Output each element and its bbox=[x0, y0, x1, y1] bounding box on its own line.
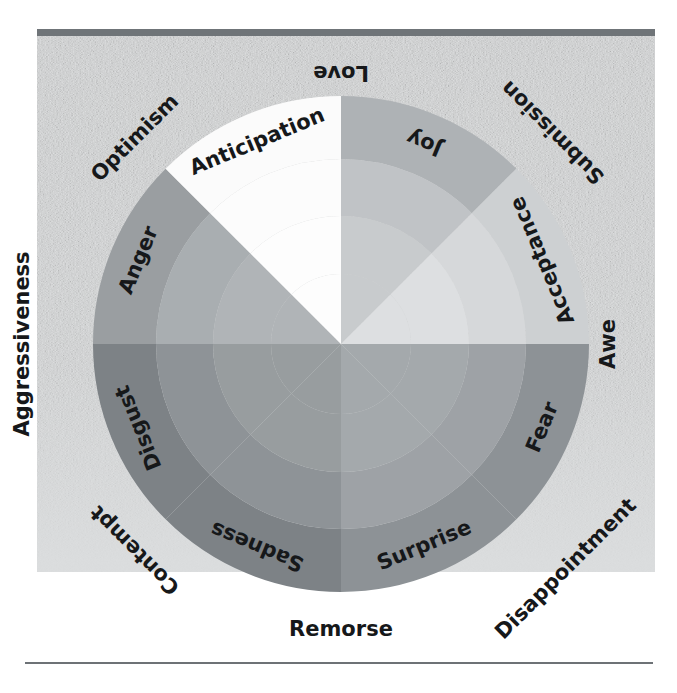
figure-canvas: JoyAcceptanceFearSurpriseSadnessDisgustA… bbox=[0, 0, 677, 693]
dyad-label-love: Love bbox=[313, 61, 369, 85]
dyad-label-remorse: Remorse bbox=[289, 617, 393, 641]
bottom-divider-rule bbox=[25, 662, 653, 664]
wheel-sectors bbox=[93, 96, 589, 592]
dyad-label-awe: Awe bbox=[596, 319, 620, 369]
dyad-label-aggressiveness: Aggressiveness bbox=[10, 251, 34, 436]
wheel-of-emotions-figure: JoyAcceptanceFearSurpriseSadnessDisgustA… bbox=[0, 0, 677, 693]
top-bar bbox=[37, 29, 655, 36]
